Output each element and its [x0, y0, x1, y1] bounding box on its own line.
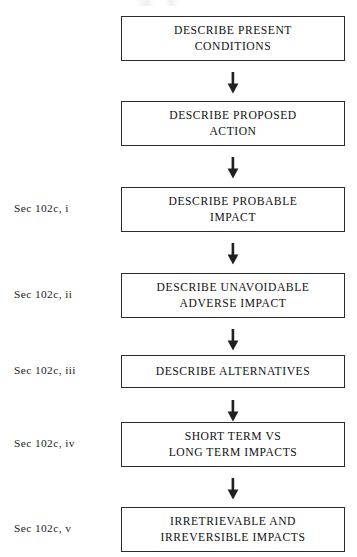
process-box-describe-proposed-action: DESCRIBE PROPOSED ACTION [121, 101, 345, 146]
down-arrow-icon-3 [225, 243, 241, 265]
process-box-describe-present-conditions: DESCRIBE PRESENT CONDITIONS [121, 16, 345, 61]
section-label-sec-102c-iii: Sec 102c, iii [14, 364, 118, 376]
process-box-label: DESCRIBE ALTERNATIVES [156, 364, 310, 380]
section-label-sec-102c-iv: Sec 102c, iv [14, 437, 118, 449]
process-box-label: IRRETRIEVABLE AND IRREVERSIBLE IMPACTS [161, 514, 306, 545]
process-box-describe-alternatives: DESCRIBE ALTERNATIVES [121, 355, 345, 388]
down-arrow-icon-6 [225, 478, 241, 500]
section-label-sec-102c-ii: Sec 102c, ii [14, 288, 118, 300]
process-box-label: DESCRIBE UNAVOIDABLE ADVERSE IMPACT [157, 280, 310, 311]
process-box-label: DESCRIBE PRESENT CONDITIONS [174, 23, 292, 54]
process-box-label: SHORT TERM VS LONG TERM IMPACTS [169, 429, 298, 460]
process-box-short-term-vs-long-term-impacts: SHORT TERM VS LONG TERM IMPACTS [121, 422, 345, 467]
down-arrow-icon-1 [225, 72, 241, 94]
process-box-label: DESCRIBE PROBABLE IMPACT [169, 194, 298, 225]
scan-artifact [136, 0, 196, 6]
flowchart-diagram: DESCRIBE PRESENT CONDITIONS DESCRIBE PRO… [0, 0, 357, 557]
section-label-sec-102c-i: Sec 102c, i [14, 202, 118, 214]
process-box-describe-probable-impact: DESCRIBE PROBABLE IMPACT [121, 187, 345, 232]
process-box-irretrievable-and-irreversible-impacts: IRRETRIEVABLE AND IRREVERSIBLE IMPACTS [121, 507, 345, 552]
process-box-describe-unavoidable-adverse-impact: DESCRIBE UNAVOIDABLE ADVERSE IMPACT [121, 273, 345, 318]
section-label-sec-102c-v: Sec 102c, v [14, 522, 118, 534]
down-arrow-icon-5 [225, 400, 241, 422]
down-arrow-icon-4 [225, 329, 241, 351]
down-arrow-icon-2 [225, 157, 241, 179]
process-box-label: DESCRIBE PROPOSED ACTION [169, 108, 297, 139]
